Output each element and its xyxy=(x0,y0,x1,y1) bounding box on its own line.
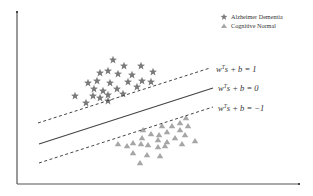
cognitive-normal-point xyxy=(182,132,189,137)
cognitive-normal-point xyxy=(144,152,151,157)
alzheimer-point xyxy=(96,69,104,77)
cognitive-normal-point xyxy=(130,140,137,145)
cognitive-normal-point xyxy=(164,139,171,144)
cognitive-normal-point xyxy=(155,137,162,142)
cognitive-normal-point xyxy=(157,153,164,158)
cognitive-normal-point xyxy=(169,123,176,128)
alzheimer-point xyxy=(124,78,132,86)
alzheimer-point xyxy=(109,56,117,64)
svm-diagram: wTs + b = 1 wTs + b = 0 wTs + b = −1 Alz… xyxy=(0,0,313,196)
alzheimer-point xyxy=(82,99,90,107)
x-axis-arrow xyxy=(298,183,300,185)
cognitive-normal-point xyxy=(177,127,184,132)
legend-label-alzheimer: Alzheimer Dementia xyxy=(231,13,283,20)
alzheimer-point xyxy=(71,92,79,100)
alzheimer-point xyxy=(93,77,101,85)
cognitive-normal-point xyxy=(164,129,171,134)
alzheimer-point xyxy=(128,71,136,79)
alzheimer-point xyxy=(106,79,114,87)
alzheimer-point xyxy=(99,87,107,95)
alzheimer-point xyxy=(137,62,145,70)
cognitive-normal-point xyxy=(172,135,179,140)
legend-item-cognitive-normal: Cognitive Normal xyxy=(221,22,276,29)
legend-label-cognitive-normal: Cognitive Normal xyxy=(231,22,276,29)
alzheimer-point xyxy=(104,67,112,75)
legend-item-alzheimer: Alzheimer Dementia xyxy=(221,13,283,20)
cognitive-normal-point xyxy=(145,142,152,147)
alzheimer-point xyxy=(113,85,121,93)
cognitive-normal-point xyxy=(177,120,184,125)
lower-margin-line xyxy=(39,107,213,163)
alzheimer-point xyxy=(147,78,155,86)
alzheimer-point xyxy=(84,79,92,87)
cognitive-normal-point xyxy=(124,143,131,148)
cognitive-normal-point xyxy=(140,127,147,132)
cognitive-normal-point xyxy=(130,150,137,155)
cognitive-normal-point xyxy=(138,141,145,146)
cognitive-normal-point xyxy=(148,131,155,136)
triangle-icon xyxy=(221,24,227,29)
alzheimer-point xyxy=(120,62,128,70)
alzheimer-point xyxy=(138,77,146,85)
upper-margin-equation: wTs + b = 1 xyxy=(216,64,257,75)
cognitive-normal-points xyxy=(115,115,199,165)
alzheimer-point xyxy=(114,70,122,78)
cognitive-normal-point xyxy=(115,141,122,146)
boundary-equation: wTs + b = 0 xyxy=(218,83,259,94)
cognitive-normal-point xyxy=(156,132,163,137)
upper-margin-line xyxy=(38,68,210,123)
alzheimer-point xyxy=(89,92,97,100)
star-icon xyxy=(221,13,228,20)
lower-margin-equation: wTs + b = −1 xyxy=(218,103,264,114)
legend: Alzheimer Dementia Cognitive Normal xyxy=(221,13,283,29)
cognitive-normal-point xyxy=(155,144,162,149)
cognitive-normal-point xyxy=(192,138,199,143)
cognitive-normal-point xyxy=(185,123,192,128)
cognitive-normal-point xyxy=(179,141,186,146)
cognitive-normal-point xyxy=(139,135,146,140)
cognitive-normal-point xyxy=(137,160,144,165)
alzheimer-point xyxy=(149,68,157,76)
alzheimer-point xyxy=(90,85,98,93)
alzheimer-point xyxy=(96,94,104,102)
y-axis-arrow xyxy=(16,11,18,13)
